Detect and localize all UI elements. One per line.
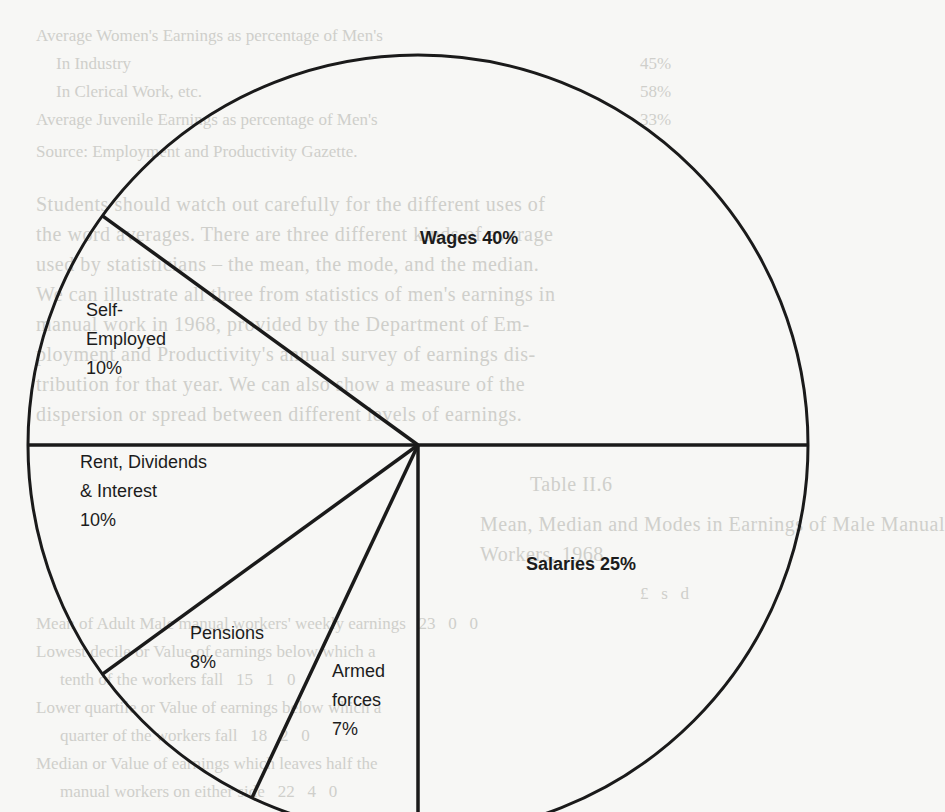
label-line: 10% xyxy=(80,506,207,535)
label-pensions: Pensions 8% xyxy=(190,619,264,677)
label-line: Pensions xyxy=(190,619,264,648)
label-armed-forces: Armed forces 7% xyxy=(332,657,385,744)
label-wages: Wages 40% xyxy=(420,224,518,253)
slice-boundary xyxy=(252,445,418,798)
label-line: Armed xyxy=(332,657,385,686)
label-line: Rent, Dividends xyxy=(80,448,207,477)
label-self-employed: Self- Employed 10% xyxy=(86,296,166,383)
label-line: Self- xyxy=(86,296,166,325)
label-line: & Interest xyxy=(80,477,207,506)
label-salaries: Salaries 25% xyxy=(526,550,636,579)
label-line: Employed xyxy=(86,325,166,354)
label-line: 7% xyxy=(332,715,385,744)
pie-slices xyxy=(28,55,808,812)
label-line: 8% xyxy=(190,648,264,677)
label-line: 10% xyxy=(86,354,166,383)
label-line: forces xyxy=(332,686,385,715)
label-rent-dividends-interest: Rent, Dividends & Interest 10% xyxy=(80,448,207,535)
